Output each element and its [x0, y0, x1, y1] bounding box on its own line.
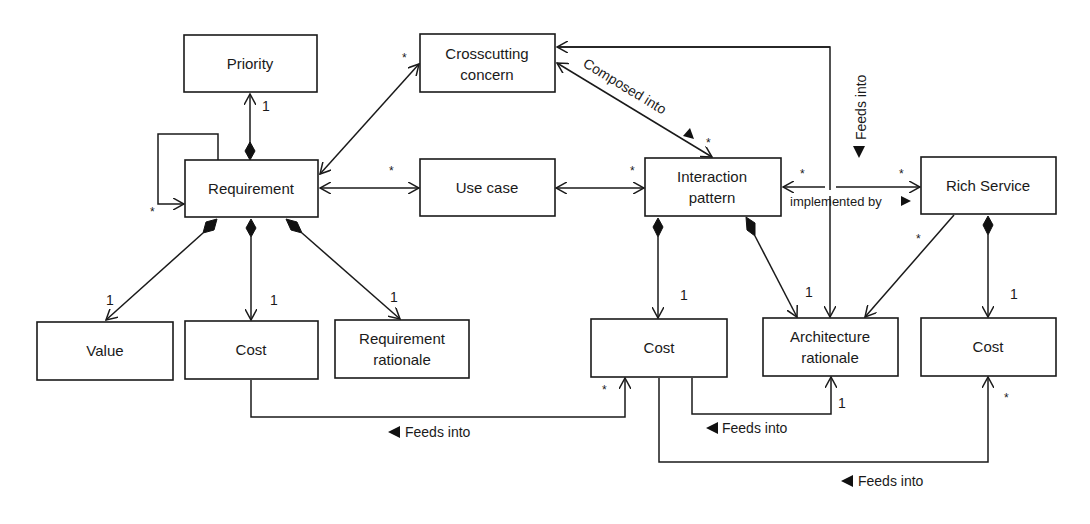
svg-text:Cost: Cost — [236, 341, 268, 358]
edge-feeds-into-ip-arch: 1 Feeds into — [692, 377, 846, 436]
class-interaction-pattern: Interaction pattern — [645, 158, 781, 216]
class-rich-service: Rich Service — [921, 157, 1056, 214]
direction-triangle-icon — [388, 426, 400, 438]
svg-text:*: * — [389, 164, 394, 178]
svg-text:1: 1 — [1010, 286, 1018, 302]
svg-text:pattern: pattern — [689, 189, 736, 206]
svg-text:Cost: Cost — [973, 338, 1005, 355]
svg-text:Rich Service: Rich Service — [946, 177, 1030, 194]
svg-text:concern: concern — [460, 66, 513, 83]
edge-requirement-usecase: * — [320, 164, 419, 188]
direction-triangle-icon — [841, 475, 853, 487]
svg-text:Requirement: Requirement — [208, 180, 295, 197]
class-use-case: Use case — [420, 159, 555, 216]
edge-interaction-cost: 1 — [653, 218, 688, 318]
svg-text:1: 1 — [390, 289, 398, 305]
svg-text:Crosscutting: Crosscutting — [445, 45, 528, 62]
class-crosscutting-concern: Crosscutting concern — [420, 34, 555, 92]
svg-text:*: * — [630, 164, 635, 178]
class-requirement-cost: Cost — [185, 321, 318, 379]
composition-diamond-icon — [246, 219, 256, 237]
direction-triangle-icon — [901, 196, 911, 206]
svg-text:1: 1 — [106, 292, 114, 308]
svg-text:Value: Value — [86, 342, 123, 359]
composition-diamond-icon — [286, 219, 302, 233]
uml-diagram: 1 * * * * Composed into * Feeds into i — [0, 0, 1090, 524]
svg-text:Priority: Priority — [227, 55, 274, 72]
svg-text:Feeds into: Feeds into — [405, 424, 471, 440]
edge-usecase-interaction: * — [556, 164, 644, 188]
svg-text:*: * — [150, 205, 155, 219]
svg-text:rationale: rationale — [373, 351, 431, 368]
svg-text:*: * — [916, 232, 921, 246]
composition-diamond-icon — [203, 219, 217, 233]
svg-text:*: * — [800, 167, 805, 181]
svg-text:Interaction: Interaction — [677, 168, 747, 185]
composition-diamond-icon — [245, 142, 255, 160]
class-requirement: Requirement — [185, 160, 318, 217]
svg-text:Cost: Cost — [644, 339, 676, 356]
edge-requirement-crosscutting: * — [320, 51, 419, 174]
class-priority: Priority — [184, 35, 317, 92]
svg-text:*: * — [1004, 391, 1009, 405]
svg-text:Feeds into: Feeds into — [853, 74, 869, 140]
composition-diamond-icon — [746, 217, 755, 236]
svg-text:implemented by: implemented by — [790, 194, 882, 209]
edge-requirement-priority: 1 — [245, 94, 270, 160]
edge-interaction-arch: 1 — [746, 217, 813, 317]
svg-text:1: 1 — [270, 292, 278, 308]
svg-text:Requirement: Requirement — [359, 330, 446, 347]
svg-text:1: 1 — [680, 287, 688, 303]
edge-feeds-into-req-cost: * Feeds into — [251, 378, 625, 440]
class-rich-service-cost: Cost — [921, 318, 1056, 376]
edge-feeds-into-rs-cost: * Feeds into — [659, 377, 1009, 489]
direction-triangle-icon — [853, 146, 865, 158]
class-interaction-cost: Cost — [591, 319, 727, 377]
svg-text:Architecture: Architecture — [790, 328, 870, 345]
svg-text:1: 1 — [805, 284, 813, 300]
class-architecture-rationale: Architecture rationale — [763, 318, 898, 376]
svg-text:Feeds into: Feeds into — [722, 420, 788, 436]
direction-triangle-icon — [706, 422, 718, 434]
svg-text:Feeds into: Feeds into — [858, 473, 924, 489]
svg-text:1: 1 — [262, 98, 270, 114]
direction-triangle-icon — [683, 128, 694, 139]
edge-richservice-cost: 1 — [983, 216, 1018, 317]
svg-text:*: * — [402, 51, 407, 65]
edge-requirement-rationale: 1 — [286, 219, 400, 319]
svg-text:*: * — [899, 167, 904, 181]
edge-requirement-cost: 1 — [246, 219, 278, 320]
edge-requirement-value: 1 — [106, 219, 217, 320]
svg-text:*: * — [706, 136, 711, 150]
svg-text:*: * — [602, 383, 607, 397]
composition-diamond-icon — [653, 218, 663, 237]
edge-composed-into: Composed into * — [557, 55, 712, 157]
composition-diamond-icon — [983, 216, 993, 235]
edge-implemented-by: implemented by * * — [783, 167, 920, 209]
edge-richservice-arch: * — [865, 215, 954, 317]
svg-text:rationale: rationale — [801, 349, 859, 366]
svg-text:1: 1 — [838, 395, 846, 411]
svg-text:Use case: Use case — [456, 179, 519, 196]
class-requirement-rationale: Requirement rationale — [335, 320, 469, 378]
class-value: Value — [37, 322, 173, 380]
